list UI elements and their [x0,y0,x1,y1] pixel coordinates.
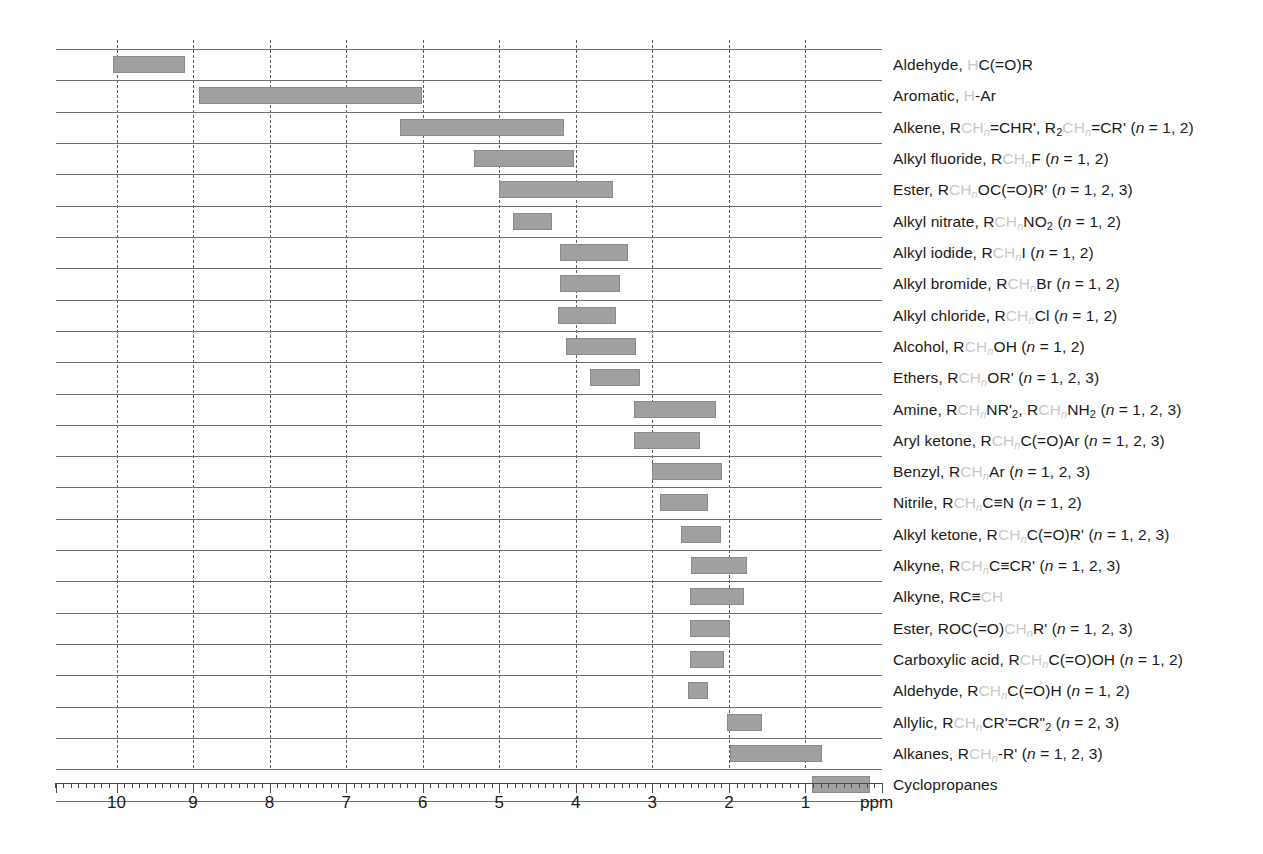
axis-minor-tick [438,783,439,788]
row-rule [56,581,882,582]
axis-minor-tick [109,783,110,788]
highlighted-proton-group: CH [1004,620,1027,637]
axis-minor-tick [867,783,868,788]
gridline-2ppm [729,40,730,768]
axis-major-tick [499,783,500,793]
gridline-6ppm [423,40,424,768]
axis-minor-tick [285,783,286,788]
axis-minor-tick [277,783,278,788]
highlighted-proton-group: CH [993,244,1016,261]
row-rule [56,237,882,238]
gridline-10ppm [117,40,118,768]
row-rule [56,425,882,426]
axis-minor-tick [606,783,607,788]
axis-minor-tick [323,783,324,788]
axis-minor-tick [484,783,485,788]
axis-minor-tick [216,783,217,788]
shift-range-bar [660,494,708,511]
shift-range-bar [513,213,552,230]
axis-minor-tick [407,783,408,788]
row-label: Alkanes, RCHn-R' (n = 1, 2, 3) [893,738,1103,769]
axis-minor-tick [308,783,309,788]
axis-major-tick [576,783,577,793]
axis-end-cap [882,783,883,793]
axis-tick-label-6: 6 [403,793,443,813]
axis-minor-tick [874,783,875,788]
row-rule [56,362,882,363]
axis-major-tick [652,783,653,793]
axis-minor-tick [201,783,202,788]
axis-minor-tick [453,783,454,788]
row-label: Allylic, RCHnCR'=CR"2 (n = 2, 3) [893,707,1119,738]
shift-range-bar [730,745,822,762]
highlighted-proton-group: CH [969,745,992,762]
gridline-1ppm [805,40,806,768]
highlighted-proton-group: CH [960,557,983,574]
shift-range-bar [690,651,724,668]
axis-minor-tick [782,783,783,788]
axis-minor-tick [94,783,95,788]
row-label: Amine, RCHnNR'2, RCHnNH2 (n = 1, 2, 3) [893,394,1181,425]
shift-range-bar [690,588,744,605]
axis-tick-label-10: 10 [97,793,137,813]
highlighted-proton-group: CH [949,181,972,198]
axis-minor-tick [155,783,156,788]
axis-minor-tick [400,783,401,788]
row-label: Aryl ketone, RCHnC(=O)Ar (n = 1, 2, 3) [893,425,1165,456]
axis-minor-tick [813,783,814,788]
axis-minor-tick [737,783,738,788]
shift-range-bar [499,181,613,198]
axis-minor-tick [101,783,102,788]
axis-minor-tick [262,783,263,788]
shift-range-bar [727,714,761,731]
row-rule [56,300,882,301]
row-label: Nitrile, RCHnC≡N (n = 1, 2) [893,487,1082,518]
axis-minor-tick [231,783,232,788]
axis-minor-tick [767,783,768,788]
axis-minor-tick [859,783,860,788]
gridline-9ppm [193,40,194,768]
axis-tick-label-7: 7 [326,793,366,813]
row-label: Benzyl, RCHnAr (n = 1, 2, 3) [893,456,1090,487]
axis-minor-tick [798,783,799,788]
row-label: Alkyl fluoride, RCHnF (n = 1, 2) [893,143,1109,174]
axis-minor-tick [752,783,753,788]
row-rule [56,769,882,770]
row-rule [56,613,882,614]
axis-minor-tick [545,783,546,788]
axis-minor-tick [208,783,209,788]
row-label: Alkyl nitrate, RCHnNO2 (n = 1, 2) [893,206,1121,237]
axis-minor-tick [185,783,186,788]
row-label: Alkyl chloride, RCHnCl (n = 1, 2) [893,300,1117,331]
axis-minor-tick [331,783,332,788]
axis-minor-tick [178,783,179,788]
axis-minor-tick [492,783,493,788]
highlighted-proton-group: CH [979,682,1002,699]
axis-minor-tick [515,783,516,788]
row-rule [56,738,882,739]
nmr-chemical-shift-chart: Aldehyde, HC(=O)RAromatic, H-ArAlkene, R… [0,0,1263,854]
axis-major-tick [346,783,347,793]
axis-major-tick [805,783,806,793]
ppm-unit-label: ppm [860,793,893,813]
row-rule [56,331,882,332]
axis-minor-tick [461,783,462,788]
row-label: Alkyl ketone, RCHnC(=O)R' (n = 1, 2, 3) [893,519,1170,550]
row-label: Ester, ROC(=O)CHnR' (n = 1, 2, 3) [893,613,1133,644]
row-rule [56,487,882,488]
axis-minor-tick [63,783,64,788]
row-label: Aromatic, H-Ar [893,80,996,111]
shift-range-bar [688,682,708,699]
axis-minor-tick [469,783,470,788]
highlighted-proton-group: CH [1038,401,1061,418]
shift-range-bar [566,338,636,355]
row-rule [56,49,882,50]
axis-minor-tick [124,783,125,788]
axis-minor-tick [629,783,630,788]
row-rule [56,80,882,81]
axis-minor-tick [369,783,370,788]
axis-minor-tick [675,783,676,788]
axis-minor-tick [599,783,600,788]
shift-range-bar [474,150,574,167]
row-rule [56,206,882,207]
